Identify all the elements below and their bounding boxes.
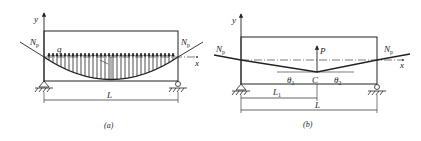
load-label-q: q — [57, 44, 62, 54]
roller-support-a — [169, 82, 187, 93]
y-axis-label-b: y — [231, 15, 236, 25]
roller-support-b — [368, 85, 386, 96]
beam-b — [241, 37, 377, 84]
angle-theta2: θ2 — [334, 75, 341, 86]
span-label-b: L — [314, 100, 320, 110]
angle-theta1: θ1 — [287, 75, 294, 86]
force-label-right-b: Np — [383, 44, 393, 55]
point-load-label: P — [319, 46, 326, 56]
span-label-a: L — [106, 90, 112, 100]
force-label-left-a: Np — [29, 37, 39, 48]
caption-b: (b) — [303, 120, 313, 129]
point-c-label: C — [312, 75, 319, 85]
panel-b: y x P θ1 C θ2 Np Np L1 — [214, 14, 410, 129]
caption-a: (a) — [104, 121, 114, 130]
l1-label: L1 — [272, 87, 281, 98]
panel-a: y x Np Np q — [20, 13, 203, 130]
force-label-right-a: Np — [180, 37, 190, 48]
y-axis-label-a: y — [33, 14, 38, 24]
x-axis-label-a: x — [194, 58, 199, 68]
pin-support-b — [232, 84, 250, 95]
tendon-harped — [214, 54, 410, 72]
force-label-left-b: Np — [215, 44, 225, 55]
pin-support-a — [35, 81, 53, 92]
x-axis-label-b: x — [399, 60, 404, 70]
prestress-diagram: y x Np Np q — [0, 0, 421, 141]
